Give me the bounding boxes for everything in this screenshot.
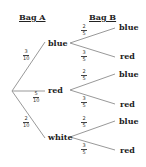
denominator: 10 [33,98,39,103]
prob-a-white: 210 [23,116,29,128]
prob-a-red: 510 [33,91,39,103]
bag-a-header: Bag A [19,13,46,21]
bag-b-node-blue-2: blue [119,70,139,78]
bag-a-node-blue: blue [48,39,68,47]
bag-b-node-red-3: red [120,146,135,154]
bag-b-header: Bag B [89,13,116,21]
bag-b-node-red-1: red [120,52,135,60]
prob-a-blue: 310 [23,49,29,61]
prob-b-blue-given-blue: 25 [81,24,87,36]
denominator: 5 [82,103,85,108]
numerator: 3 [25,49,28,54]
prob-b-blue-given-red: 25 [81,69,87,81]
bag-b-node-red-2: red [120,100,135,108]
bag-a-node-white: white [48,133,73,141]
numerator: 2 [25,116,28,121]
numerator: 2 [82,24,85,29]
bag-a-node-red: red [48,86,63,94]
denominator: 5 [82,150,85,155]
numerator: 5 [35,91,38,96]
prob-b-red-given-blue: 35 [81,50,87,62]
bag-b-node-blue-1: blue [119,23,139,31]
probability-tree-diagram: Bag A Bag B blue red white 310 510 210 b… [0,0,146,167]
numerator: 2 [82,116,85,121]
denominator: 10 [23,56,29,61]
denominator: 5 [82,57,85,62]
denominator: 10 [23,123,29,128]
numerator: 3 [82,50,85,55]
prob-b-blue-given-white: 25 [81,116,87,128]
numerator: 2 [82,69,85,74]
numerator: 3 [82,96,85,101]
denominator: 5 [82,76,85,81]
prob-b-red-given-red: 35 [81,96,87,108]
bag-b-node-blue-3: blue [119,117,139,125]
numerator: 3 [82,143,85,148]
denominator: 5 [82,123,85,128]
denominator: 5 [82,31,85,36]
prob-b-red-given-white: 35 [81,143,87,155]
